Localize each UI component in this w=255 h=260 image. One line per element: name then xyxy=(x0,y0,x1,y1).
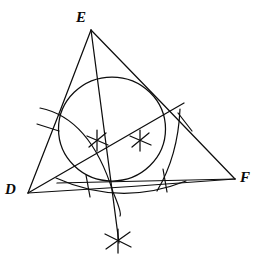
incircle-outline xyxy=(59,77,166,181)
vertex-label-D: D xyxy=(5,182,16,197)
tick-on-side-DE xyxy=(37,124,59,131)
side-EF xyxy=(91,30,235,179)
cross-left-of-incenter xyxy=(87,130,108,151)
bisector-from-E xyxy=(91,30,119,243)
side-DE xyxy=(28,30,91,193)
cross-below-triangle xyxy=(105,229,131,253)
vertex-label-F: F xyxy=(240,170,250,185)
triangle-outline xyxy=(28,30,235,193)
geometry-figure: E D F xyxy=(0,0,255,260)
cross-marks xyxy=(87,130,151,253)
geometry-canvas xyxy=(0,0,255,260)
vertex-label-E: E xyxy=(76,10,86,25)
tick-on-side-DF-left xyxy=(86,175,90,197)
cross-right-of-incenter xyxy=(130,130,151,151)
incircle xyxy=(59,77,166,181)
